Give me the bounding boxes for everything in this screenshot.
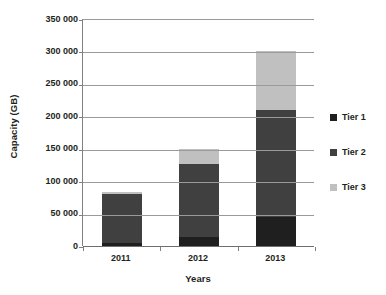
bar-segment[interactable] [256,217,296,246]
x-axis-tickmark [160,247,161,251]
gridline [83,117,314,118]
y-axis-title: Capacity (GB) [8,67,19,187]
x-axis-tickmark [238,247,239,251]
y-axis-tick-label: 300 000 [22,47,78,56]
legend-item[interactable]: Tier 1 [330,110,386,124]
y-axis-tickmark [79,20,83,21]
legend-swatch-icon [330,114,337,121]
legend-swatch-icon [330,184,337,191]
gridline [83,182,314,183]
y-axis-tickmark [79,85,83,86]
bar-segment[interactable] [102,192,142,195]
bar-segment[interactable] [102,194,142,243]
x-axis-tick-label: 2012 [168,253,228,263]
y-axis-tick-labels: 350 000300 000250 000200 000150 000100 0… [22,0,78,295]
x-axis-tickmark [315,247,316,251]
x-axis-tick-label: 2013 [245,253,305,263]
x-axis-tickmark [83,247,84,251]
y-axis-tickmark [79,150,83,151]
y-axis-tick-label: 0 [22,242,78,251]
bar-segment[interactable] [179,164,219,237]
y-axis-tickmark [79,215,83,216]
gridline [83,150,314,151]
x-axis-title: Years [82,273,314,284]
legend-item[interactable]: Tier 2 [330,145,386,159]
x-axis-tick-labels: 201120122013 [82,253,314,267]
y-axis-tickmark [79,117,83,118]
y-axis-tick-label: 200 000 [22,112,78,121]
bar-segment[interactable] [102,243,142,246]
bar-segment[interactable] [179,149,219,163]
y-axis-tick-label: 150 000 [22,144,78,153]
bars-layer [83,20,314,246]
plot-area [82,19,314,246]
stacked-bar-chart: Capacity (GB) 350 000300 000250 000200 0… [0,0,386,295]
x-axis-tick-label: 2011 [91,253,151,263]
y-axis-tickmark [79,52,83,53]
y-axis-tick-label: 350 000 [22,15,78,24]
legend-label: Tier 1 [342,112,366,122]
legend-label: Tier 2 [342,147,366,157]
legend-item[interactable]: Tier 3 [330,180,386,194]
y-axis-tick-label: 100 000 [22,177,78,186]
gridline [83,52,314,53]
legend-label: Tier 3 [342,182,366,192]
gridline [83,215,314,216]
gridline [83,85,314,86]
legend-swatch-icon [330,149,337,156]
y-axis-tick-label: 50 000 [22,209,78,218]
bar-segment[interactable] [256,110,296,217]
chart-legend: Tier 1Tier 2Tier 3 [330,110,386,215]
y-axis-tick-label: 250 000 [22,79,78,88]
bar-segment[interactable] [179,237,219,246]
y-axis-tickmark [79,182,83,183]
bar-segment[interactable] [256,51,296,109]
